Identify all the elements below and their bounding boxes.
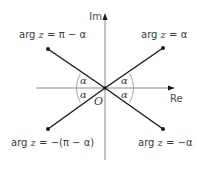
real-axis-label: Re [170, 94, 183, 104]
ray-top-left [48, 49, 105, 88]
endpoint-bottom-left [46, 127, 50, 131]
origin-point [103, 86, 107, 90]
label-top-right: arg z = α [141, 29, 187, 41]
angle-label-upper-right: α [121, 76, 128, 86]
argand-diagram: Im Re O α α α α arg z = α arg z = π − α … [0, 0, 197, 171]
angle-label-upper-left: α [80, 76, 87, 86]
endpoint-top-right [161, 46, 165, 50]
label-bottom-right: arg z = −α [138, 137, 193, 149]
endpoint-top-left [46, 47, 50, 51]
real-axis-arrow-icon [168, 86, 175, 91]
endpoint-bottom-right [161, 127, 165, 131]
imaginary-axis-arrow-icon [103, 13, 108, 20]
imaginary-axis-label: Im [89, 12, 102, 22]
ray-top-right [105, 48, 163, 88]
angle-label-lower-right: α [121, 90, 128, 100]
ray-bottom-right [105, 88, 163, 129]
origin-label: O [94, 96, 103, 107]
label-top-left: arg z = π − α [19, 29, 86, 41]
label-bottom-left: arg z = −(π − α) [11, 137, 94, 149]
angle-label-lower-left: α [80, 90, 87, 100]
